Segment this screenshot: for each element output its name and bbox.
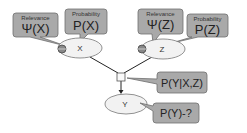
callout-formula: Ψ(X) xyxy=(21,21,49,36)
node-label: Y xyxy=(122,100,128,109)
callout-x-probability: Probability P(X) xyxy=(65,9,107,42)
edge-x-factor xyxy=(90,57,118,73)
bayesian-network-diagram: Relevance Ψ(X) Probability P(X) X Releva… xyxy=(0,0,247,133)
callout-formula: P(X) xyxy=(73,18,99,33)
relevance-marker-icon xyxy=(58,45,66,53)
callout-formula: P(Z) xyxy=(195,22,220,37)
callout-factor: P(Y|X,Z) xyxy=(127,72,207,93)
callout-formula: P(Y|X,Z) xyxy=(161,77,203,89)
node-label: Z xyxy=(160,45,165,54)
edge-z-factor xyxy=(124,57,152,73)
callout-z-relevance: Relevance Ψ(Z) xyxy=(138,9,183,43)
relevance-marker-icon xyxy=(138,45,146,53)
callout-x-relevance: Relevance Ψ(X) xyxy=(13,13,66,46)
arrow-head-icon xyxy=(119,90,124,94)
callout-formula: Ψ(Z) xyxy=(147,17,174,32)
factor-node[interactable] xyxy=(117,73,125,81)
callout-title: Probability xyxy=(72,11,100,17)
callout-y-query: P(Y)-? xyxy=(140,103,199,123)
callout-formula: P(Y)-? xyxy=(160,107,192,119)
node-z[interactable]: Z xyxy=(141,39,185,59)
node-y[interactable]: Y xyxy=(105,94,147,114)
node-label: X xyxy=(77,44,83,53)
